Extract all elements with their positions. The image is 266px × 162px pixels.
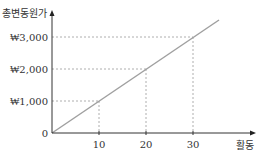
y-tick-3000: ₩3,000: [10, 32, 48, 43]
y-axis-label: 총변동원가: [2, 8, 47, 19]
x-tick-30: 30: [187, 139, 200, 150]
x-tick-20: 20: [140, 139, 153, 150]
y-axis-arrow-icon: [50, 10, 55, 16]
x-axis-label: 활동: [236, 139, 254, 151]
y-tick-2000: ₩2,000: [10, 64, 48, 75]
x-axis-arrow-icon: [250, 131, 256, 136]
chart: 총변동원가 ₩3,000 ₩2,000 ₩1,000 0 10 20 30 활동: [0, 0, 266, 162]
axes: [52, 15, 250, 135]
x-tick-10: 10: [93, 139, 106, 150]
origin-label: 0: [42, 128, 48, 139]
y-tick-1000: ₩1,000: [10, 96, 48, 107]
